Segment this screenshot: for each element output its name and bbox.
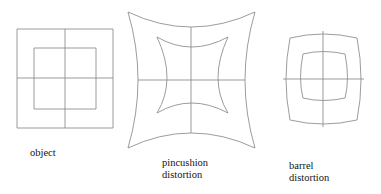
- caption-pincushion: pincushion distortion: [162, 157, 208, 182]
- barrel-inner-frame: [301, 52, 348, 101]
- panel-barrel: [283, 31, 364, 127]
- panel-pincushion: [128, 12, 255, 148]
- panel-object: [17, 29, 113, 128]
- caption-barrel: barrel distortion: [289, 160, 329, 185]
- distortion-figure: object pincushion distortion barrel dist…: [0, 0, 381, 194]
- caption-object: object: [30, 147, 56, 159]
- pincushion-inner-frame: [157, 37, 228, 113]
